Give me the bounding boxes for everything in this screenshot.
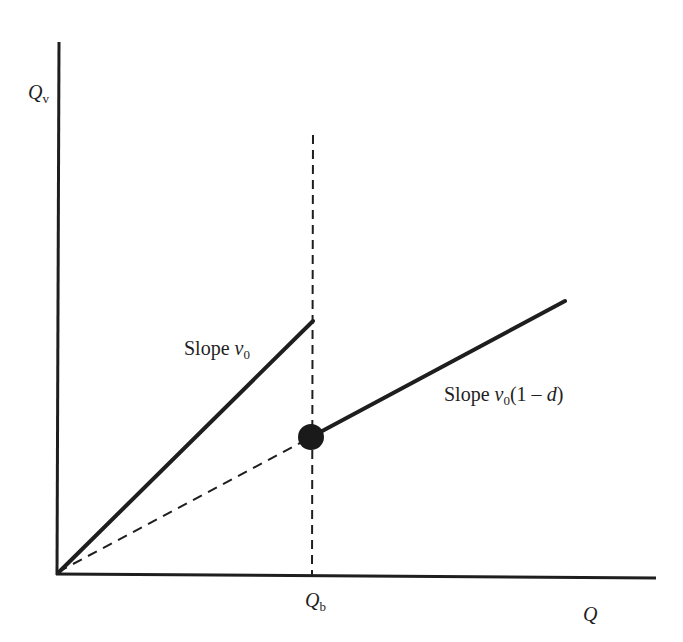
qb-vertical-dashed-line: [312, 135, 313, 576]
qb-label-symbol: Q: [305, 589, 319, 611]
slope-label-suffix-close: ): [557, 383, 564, 405]
y-axis: [57, 42, 59, 575]
qb-marker-label: Qb: [305, 590, 326, 610]
x-axis: [56, 574, 656, 578]
qb-label-subscript: b: [319, 599, 326, 614]
slope-label-suffix-var: d: [547, 383, 557, 405]
discounted-slope-label: Slope v0(1 – d): [444, 384, 563, 404]
y-axis-label-subscript: v: [42, 91, 49, 106]
y-axis-label-symbol: Q: [28, 81, 42, 103]
discounted-slope-segment: [311, 301, 565, 437]
initial-slope-label: Slope v0: [184, 338, 250, 358]
x-axis-label: Q: [583, 604, 597, 624]
slope-label-suffix-open: (1 –: [510, 383, 547, 405]
breakpoint-dot: [298, 424, 324, 450]
slope-label-sub: 0: [503, 393, 510, 408]
slope-label-sub: 0: [243, 347, 250, 362]
slope-label-prefix: Slope: [184, 337, 235, 359]
diagram-canvas: [0, 0, 683, 642]
slope-label-prefix: Slope: [444, 383, 495, 405]
x-axis-label-symbol: Q: [583, 603, 597, 625]
y-axis-label: Qv: [28, 82, 49, 102]
dashed-extension-line: [58, 443, 300, 572]
